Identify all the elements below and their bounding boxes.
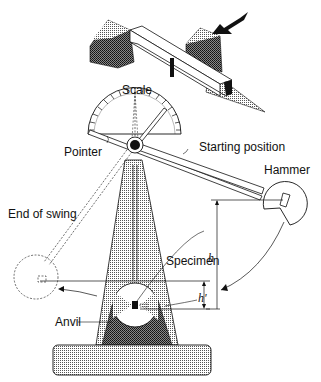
label-pointer: Pointer <box>64 146 102 158</box>
swing-arc-up <box>60 289 97 296</box>
swing-arc-down <box>221 222 284 290</box>
label-h-prime: h' <box>198 292 207 304</box>
hammer-impact <box>113 283 158 327</box>
label-end-of-swing: End of swing <box>8 208 77 220</box>
impact-arrow-icon <box>212 12 248 34</box>
label-h: h <box>208 252 214 264</box>
base <box>53 345 211 375</box>
label-scale: Scale <box>122 84 152 96</box>
label-anvil: Anvil <box>55 316 81 328</box>
specimen <box>132 301 138 309</box>
label-starting-position: Starting position <box>199 141 285 153</box>
hammer <box>263 182 307 225</box>
label-hammer: Hammer <box>264 164 310 176</box>
charpy-diagram <box>0 0 321 382</box>
